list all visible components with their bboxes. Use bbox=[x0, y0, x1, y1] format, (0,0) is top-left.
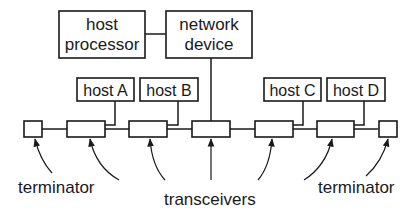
host-processor-label-line2: processor bbox=[65, 35, 140, 54]
terminator-right-box bbox=[379, 121, 397, 137]
host-b-drop-line bbox=[167, 101, 178, 125]
transceiver-1-box bbox=[67, 121, 105, 137]
transceiver-5-box bbox=[317, 121, 354, 137]
network-device-label-line2: device bbox=[184, 35, 233, 54]
host-c-drop-line bbox=[293, 101, 303, 125]
host-a-drop-line bbox=[105, 101, 115, 125]
terminator-left-arrow bbox=[35, 139, 52, 173]
host-d-box: host D bbox=[327, 78, 385, 101]
network-bus-diagram: host processor network device host A hos… bbox=[0, 0, 410, 220]
transceiver-2-box bbox=[129, 121, 167, 137]
host-b-label: host B bbox=[146, 82, 191, 99]
transceiver-4-arrow bbox=[258, 139, 272, 180]
transceivers-label: transceivers bbox=[164, 190, 256, 209]
host-d-label: host D bbox=[333, 82, 379, 99]
terminator-right-arrow bbox=[366, 139, 388, 176]
host-c-label: host C bbox=[269, 82, 315, 99]
transceiver-1-arrow bbox=[90, 139, 119, 180]
terminator-right-label: terminator bbox=[318, 178, 395, 197]
network-device-box: network device bbox=[166, 11, 252, 58]
transceiver-3-box bbox=[192, 121, 230, 137]
network-device-label-line1: network bbox=[179, 15, 239, 34]
transceiver-4-box bbox=[255, 121, 293, 137]
host-b-box: host B bbox=[140, 78, 198, 101]
host-c-box: host C bbox=[264, 78, 321, 101]
transceiver-5-arrow bbox=[304, 139, 332, 180]
host-a-box: host A bbox=[77, 78, 134, 101]
transceiver-2-arrow bbox=[150, 139, 165, 180]
terminator-left-label: terminator bbox=[18, 178, 95, 197]
host-processor-box: host processor bbox=[59, 11, 145, 58]
host-processor-label-line1: host bbox=[86, 15, 118, 34]
terminator-left-box bbox=[24, 121, 42, 137]
host-a-label: host A bbox=[83, 82, 128, 99]
